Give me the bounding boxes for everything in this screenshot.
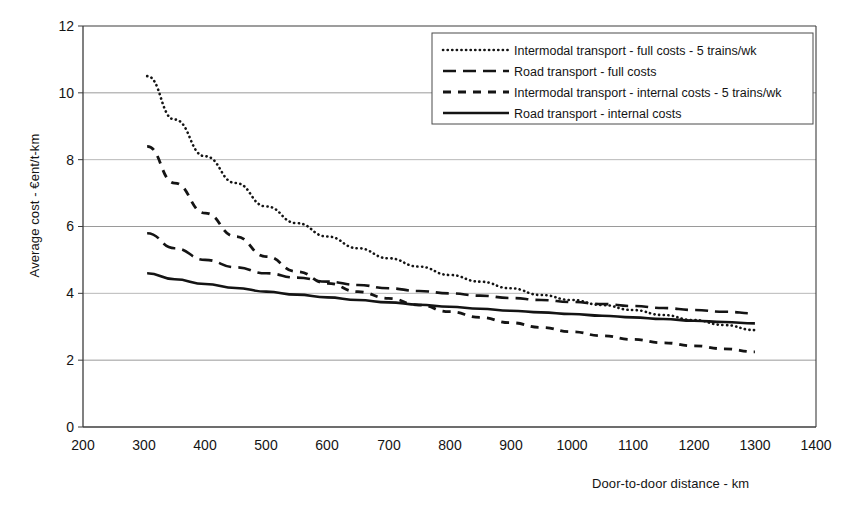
chart-legend: Intermodal transport - full costs - 5 tr… [432, 33, 813, 124]
legend-label-3: Road transport - internal costs [514, 107, 681, 121]
y-tick-marks [78, 26, 83, 427]
legend-label-1: Road transport - full costs [514, 65, 656, 79]
series-line-2 [147, 146, 755, 352]
legend-label-2: Intermodal transport - internal costs - … [514, 86, 782, 100]
plot-svg: Intermodal transport - full costs - 5 tr… [0, 0, 853, 514]
series-line-1 [147, 233, 755, 313]
chart-figure: Average cost - €ent/t-km Door-to-door di… [0, 0, 853, 514]
legend-label-0: Intermodal transport - full costs - 5 tr… [514, 44, 757, 58]
